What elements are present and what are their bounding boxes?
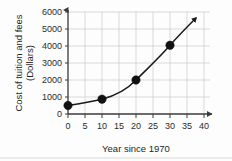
- xtick-label-0: 0: [65, 121, 70, 131]
- xtick-label-5: 5: [82, 121, 87, 131]
- xtick-label-35: 35: [182, 121, 192, 131]
- x-axis-tick-labels: 0 5 10 15 20 25 30 35 40: [65, 121, 209, 131]
- xtick-label-25: 25: [148, 121, 158, 131]
- ytick-label-2000: 2000: [42, 75, 62, 85]
- x-axis-title: Year since 1970: [102, 143, 170, 154]
- ytick-label-6000: 6000: [42, 7, 62, 17]
- chart-container: 6000 5000 4000 3000 2000 1000 0 0 5 10 1…: [0, 0, 232, 161]
- tuition-cost-chart: 6000 5000 4000 3000 2000 1000 0 0 5 10 1…: [0, 0, 232, 161]
- ytick-label-5000: 5000: [42, 24, 62, 34]
- data-point-20: [132, 76, 140, 84]
- xtick-label-20: 20: [131, 121, 141, 131]
- xtick-label-40: 40: [199, 121, 209, 131]
- xtick-label-15: 15: [114, 121, 124, 131]
- ytick-label-4000: 4000: [42, 41, 62, 51]
- ytick-label-3000: 3000: [42, 58, 62, 68]
- data-point-10: [98, 95, 106, 103]
- data-point-30: [166, 41, 174, 49]
- xtick-label-30: 30: [165, 121, 175, 131]
- y-axis-title-line1: Cost of tuition and fees: [13, 14, 24, 111]
- y-axis-title-line2: (Dollars): [24, 45, 35, 81]
- ytick-label-1000: 1000: [42, 92, 62, 102]
- data-point-0: [64, 101, 72, 109]
- xtick-label-10: 10: [97, 121, 107, 131]
- ytick-label-0: 0: [57, 109, 62, 119]
